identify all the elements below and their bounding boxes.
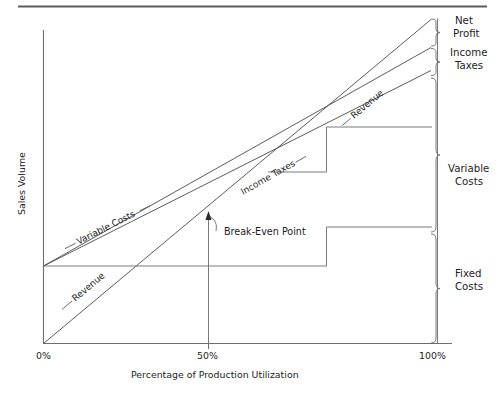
revenue-lower-label-group: Revenue — [59, 270, 107, 313]
x-axis-title: Percentage of Production Utilization — [131, 369, 299, 380]
side-label-variable-costs-line2: Costs — [455, 176, 483, 187]
side-label-net-profit-line1: Net — [455, 15, 473, 26]
bracket-fixed-costs — [431, 234, 440, 343]
side-label-income-taxes-line2: Taxes — [454, 60, 483, 71]
revenue-upper-label-group: Revenue — [339, 87, 386, 128]
bracket-income-taxes — [431, 49, 440, 76]
x-tick-label-100: 100% — [419, 350, 446, 361]
side-label-fixed-costs-line2: Costs — [455, 281, 483, 292]
side-label-variable-costs-line1: Variable — [448, 163, 489, 174]
revenue-upper-label: Revenue — [349, 87, 386, 120]
variable-costs-label-group: Variable Costs — [62, 201, 152, 253]
side-label-income-taxes: Income Taxes — [450, 47, 488, 71]
side-brackets-group — [431, 19, 440, 344]
y-axis-title: Sales Volume — [16, 152, 27, 215]
y-axis-title-group: Sales Volume — [16, 152, 27, 215]
revenue-lower-label: Revenue — [70, 270, 107, 303]
variable-costs-label: Variable Costs — [75, 209, 137, 247]
side-label-fixed-costs: Fixed Costs — [455, 268, 483, 292]
variable-costs-leader-right — [140, 205, 151, 210]
income-taxes-label-group: Income Taxes — [239, 152, 308, 197]
data-lines-group — [44, 20, 432, 344]
x-tick-label-50: 50% — [197, 350, 218, 361]
side-label-variable-costs: Variable Costs — [448, 163, 489, 187]
side-label-net-profit: Net Profit — [453, 15, 480, 39]
break-even-arrowhead — [205, 211, 211, 220]
variable-costs-leader — [65, 243, 76, 248]
x-tick-label-0: 0% — [36, 350, 51, 361]
revenue-upper-leader — [342, 118, 350, 125]
revenue-lower-leader — [62, 301, 72, 309]
break-even-marker-group — [205, 211, 216, 231]
side-label-fixed-costs-line1: Fixed — [455, 268, 481, 279]
bracket-variable-costs — [431, 78, 440, 232]
income-taxes-leader — [296, 156, 306, 162]
side-label-income-taxes-line1: Income — [450, 47, 488, 58]
side-label-net-profit-line2: Profit — [453, 28, 480, 39]
break-even-chart: Revenue Revenue Variable Costs Income Ta… — [0, 0, 504, 397]
bracket-net-profit — [431, 19, 440, 46]
break-even-point-annotation: Break-Even Point — [224, 226, 306, 237]
income-taxes-label: Income Taxes — [239, 158, 297, 197]
revenue-line — [44, 20, 432, 344]
